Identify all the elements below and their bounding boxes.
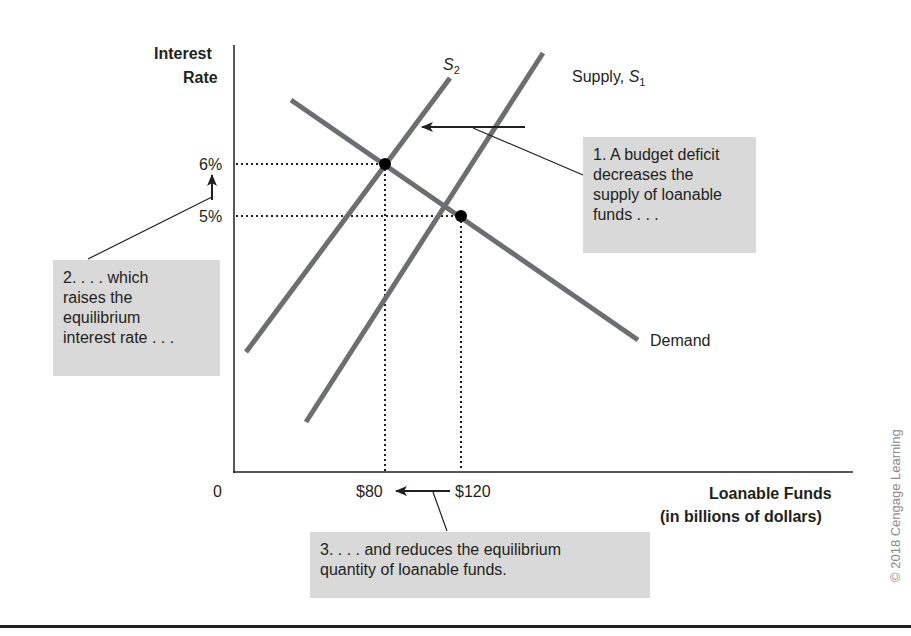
- y-tick-6pct: 6%: [199, 157, 222, 173]
- callout-box-1: 1. A budget deficit decreases the supply…: [583, 137, 756, 253]
- y-axis-label-line1: Interest: [154, 46, 212, 62]
- equilibrium-point-initial: [455, 210, 467, 222]
- demand-label: Demand: [650, 333, 710, 349]
- copyright-notice: © 2018 Cengage Learning: [888, 429, 903, 582]
- box2-leader-line: [88, 197, 212, 259]
- x-tick-120: $120: [455, 484, 491, 500]
- bottom-divider: [0, 625, 911, 628]
- box1-leader-line: [473, 128, 583, 175]
- callout-box-3: 3. . . . and reduces the equilibrium qua…: [310, 532, 650, 598]
- callout-box-2: 2. . . . which raises the equilibrium in…: [53, 260, 220, 376]
- box3-leader-line: [433, 492, 447, 531]
- x-axis-label-line1: Loanable Funds: [709, 486, 832, 502]
- y-axis-label-line2: Rate: [183, 70, 218, 86]
- x-origin-label: 0: [213, 484, 222, 500]
- x-axis-label-line2: (in billions of dollars): [660, 509, 822, 525]
- equilibrium-point-new: [379, 158, 391, 170]
- x-tick-80: $80: [356, 484, 383, 500]
- y-tick-5pct: 5%: [199, 209, 222, 225]
- s1-label: Supply, S1: [572, 69, 645, 88]
- s2-label: S2: [443, 57, 460, 76]
